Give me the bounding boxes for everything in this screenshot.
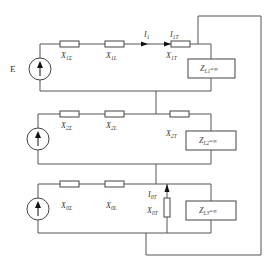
current-arrow-icon — [165, 184, 170, 192]
label-x2l: X2L — [105, 121, 117, 131]
label-i0t: I0T — [147, 190, 157, 200]
label-x1t: X1T — [165, 51, 178, 61]
resistor-x1t — [171, 41, 190, 47]
label-x0l: X0L — [105, 201, 117, 211]
label-x1-sigma: X1Σ — [60, 51, 73, 61]
label-x0t: X0T — [146, 206, 159, 216]
current-arrow-icon — [164, 42, 171, 47]
resistor-x0t — [164, 198, 170, 217]
resistor-x1l — [105, 41, 124, 47]
label-i1t: I1T — [169, 30, 179, 40]
resistor-x2-sigma — [60, 111, 79, 117]
resistor-x0-sigma — [60, 181, 79, 187]
positive-sequence-network: E ZL1=∞ X1Σ X1L I1 I1T X1T — [10, 30, 235, 91]
resistor-x0l — [105, 181, 124, 187]
resistor-x2t — [170, 111, 189, 117]
circuit-diagram: E ZL1=∞ X1Σ X1L I1 I1T X1T — [0, 0, 270, 265]
label-x0-sigma: X0Σ — [60, 201, 73, 211]
label-i1: I1 — [143, 30, 150, 40]
resistor-x2l — [105, 111, 124, 117]
label-x2-sigma: X2Σ — [60, 121, 73, 131]
source-label: E — [10, 64, 16, 74]
zero-sequence-network: ZL3=∞ X0Σ X0L I0T X0T — [27, 181, 236, 233]
label-x1l: X1L — [105, 51, 117, 61]
current-arrow-icon — [141, 42, 148, 47]
resistor-x1-sigma — [60, 41, 79, 47]
label-x2t: X2T — [165, 129, 178, 139]
negative-sequence-network: ZL2=∞ X2Σ X2L X2T — [27, 111, 236, 164]
